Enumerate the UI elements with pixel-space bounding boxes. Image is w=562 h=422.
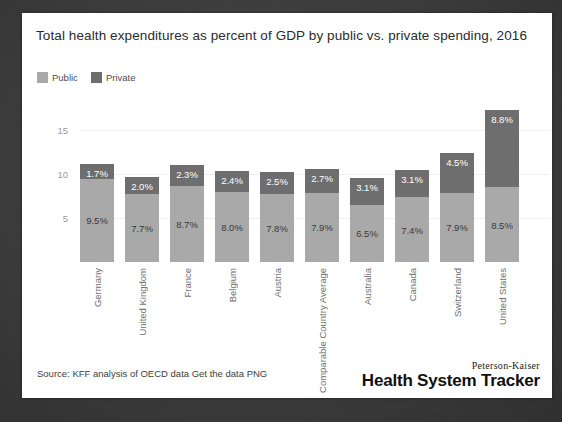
x-axis-category-label: Austria [260, 268, 294, 298]
bar-value-label: 7.9% [440, 222, 474, 233]
bar-segment-private[interactable]: 2.4% [215, 171, 249, 192]
bar-value-label: 7.4% [395, 224, 429, 235]
bar-segment-private[interactable]: 2.0% [125, 177, 159, 195]
bar-value-label: 2.3% [170, 169, 204, 180]
x-axis-category-label: Comparable Country Average [305, 268, 339, 393]
source-note[interactable]: Source: KFF analysis of OECD data Get th… [37, 368, 267, 379]
x-axis-category-label: France [170, 268, 204, 298]
bar-segment-public[interactable]: 7.9% [305, 193, 339, 262]
bar-segment-public[interactable]: 8.5% [485, 187, 519, 262]
y-axis-tick-label: 5 [42, 213, 68, 224]
bar-segment-public[interactable]: 8.7% [170, 186, 204, 262]
bar-group[interactable]: 1.7%9.5% [80, 164, 114, 262]
brand-logo: Peterson-Kaiser Health System Tracker [362, 360, 540, 390]
bar-segment-private[interactable]: 3.1% [350, 178, 384, 205]
bar-segment-private[interactable]: 8.8% [485, 110, 519, 187]
chart-plot-area: 51015 1.7%9.5%2.0%7.7%2.3%8.7%2.4%8.0%2.… [22, 13, 552, 353]
x-axis-category-label: Germany [80, 268, 114, 307]
x-axis-category-label: Belgium [215, 268, 249, 302]
bar-value-label: 8.8% [485, 114, 519, 125]
x-axis-category-text: Australia [362, 268, 373, 305]
bar-value-label: 3.1% [350, 182, 384, 193]
bar-value-label: 9.5% [80, 215, 114, 226]
bar-value-label: 7.9% [305, 222, 339, 233]
logo-kicker: Peterson-Kaiser [362, 360, 540, 371]
bar-group[interactable]: 2.7%7.9% [305, 169, 339, 262]
x-axis-category-text: Belgium [227, 268, 238, 302]
bar-value-label: 6.5% [350, 228, 384, 239]
bar-segment-private[interactable]: 1.7% [80, 164, 114, 179]
bar-segment-public[interactable]: 7.4% [395, 197, 429, 262]
bar-group[interactable]: 2.0%7.7% [125, 177, 159, 262]
bar-group[interactable]: 4.5%7.9% [440, 153, 474, 262]
bar-group[interactable]: 3.1%6.5% [350, 178, 384, 262]
logo-wordmark: Health System Tracker [362, 371, 540, 390]
bar-segment-private[interactable]: 2.5% [260, 172, 294, 194]
gridline [80, 130, 550, 131]
chart-card: Total health expenditures as percent of … [22, 13, 552, 398]
bar-value-label: 3.1% [395, 174, 429, 185]
x-axis-category-label: United Kingdom [125, 268, 159, 336]
bar-group[interactable]: 2.3%8.7% [170, 165, 204, 262]
bar-value-label: 2.7% [305, 173, 339, 184]
y-axis-tick-label: 15 [42, 125, 68, 136]
x-axis-category-text: Austria [272, 268, 283, 298]
x-axis-category-text: United States [497, 268, 508, 325]
x-axis-category-text: Germany [92, 268, 103, 307]
bar-value-label: 7.7% [125, 223, 159, 234]
bar-segment-private[interactable]: 2.3% [170, 165, 204, 185]
x-axis-category-text: Canada [407, 268, 418, 301]
bar-segment-public[interactable]: 7.8% [260, 194, 294, 262]
bar-segment-private[interactable]: 2.7% [305, 169, 339, 193]
x-axis-category-text: United Kingdom [137, 268, 148, 336]
x-axis-category-label: United States [485, 268, 519, 325]
x-axis-category-text: Comparable Country Average [317, 268, 328, 393]
x-axis-category-label: Switzerland [440, 268, 474, 317]
x-axis-category-text: Switzerland [452, 268, 463, 317]
bar-value-label: 4.5% [440, 157, 474, 168]
bar-segment-public[interactable]: 7.7% [125, 194, 159, 262]
bar-value-label: 2.5% [260, 176, 294, 187]
bar-value-label: 8.5% [485, 219, 519, 230]
bar-segment-public[interactable]: 7.9% [440, 193, 474, 262]
bar-segment-public[interactable]: 9.5% [80, 179, 114, 262]
bar-segment-public[interactable]: 8.0% [215, 192, 249, 262]
bar-value-label: 2.0% [125, 181, 159, 192]
bar-value-label: 2.4% [215, 175, 249, 186]
bar-group[interactable]: 3.1%7.4% [395, 170, 429, 262]
bar-segment-private[interactable]: 4.5% [440, 153, 474, 193]
bar-value-label: 8.0% [215, 221, 249, 232]
bar-value-label: 8.7% [170, 218, 204, 229]
bar-group[interactable]: 2.4%8.0% [215, 171, 249, 262]
bar-segment-private[interactable]: 3.1% [395, 170, 429, 197]
bar-value-label: 7.8% [260, 222, 294, 233]
y-axis-tick-label: 10 [42, 169, 68, 180]
bar-group[interactable]: 2.5%7.8% [260, 172, 294, 262]
bar-group[interactable]: 8.8%8.5% [485, 110, 519, 262]
bar-segment-public[interactable]: 6.5% [350, 205, 384, 262]
x-axis-category-text: France [182, 268, 193, 298]
x-axis-category-label: Australia [350, 268, 384, 305]
bar-value-label: 1.7% [80, 168, 114, 179]
x-axis-category-label: Canada [395, 268, 429, 301]
